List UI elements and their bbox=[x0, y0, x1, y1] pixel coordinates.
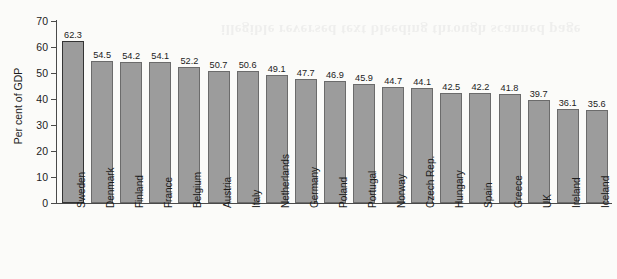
category-label: Czech Rep. bbox=[426, 156, 436, 208]
bar-value-label: 46.9 bbox=[319, 70, 351, 80]
category-label: Ireland bbox=[572, 177, 582, 208]
y-axis-tick-label: 50 bbox=[20, 68, 48, 78]
category-label: Finland bbox=[135, 175, 145, 208]
y-axis-tick bbox=[51, 21, 56, 22]
bar-value-label: 54.2 bbox=[115, 51, 147, 61]
y-axis-tick-label-text: 40 bbox=[26, 94, 48, 104]
y-axis-tick-label-text: 20 bbox=[26, 146, 48, 156]
bar-value-label: 50.7 bbox=[203, 60, 235, 70]
category-label: Norway bbox=[397, 174, 407, 208]
bar-value-label: 44.7 bbox=[377, 76, 409, 86]
category-label: Spain bbox=[484, 182, 494, 208]
bar-value-label: 52.2 bbox=[173, 56, 205, 66]
y-axis-tick-label: 40 bbox=[20, 94, 48, 104]
bar-value-label: 36.1 bbox=[552, 98, 584, 108]
y-axis-tick bbox=[51, 151, 56, 152]
y-axis-tick-label-text: 0 bbox=[26, 198, 48, 208]
y-axis-tick bbox=[51, 47, 56, 48]
y-axis-tick bbox=[51, 203, 56, 204]
bar-value-label: 41.8 bbox=[494, 83, 526, 93]
y-axis-tick-label-text: 50 bbox=[26, 68, 48, 78]
y-axis-tick-label: 20 bbox=[20, 146, 48, 156]
category-label: Portugal bbox=[368, 171, 378, 208]
category-label: France bbox=[164, 177, 174, 208]
chart-page: illegible reversed text bleeding through… bbox=[0, 0, 617, 279]
y-axis-tick bbox=[51, 125, 56, 126]
category-label: Netherlands bbox=[281, 154, 291, 208]
y-axis-tick-label-text: 70 bbox=[26, 16, 48, 26]
category-label: Italy bbox=[252, 190, 262, 208]
category-label: Iceland bbox=[601, 176, 611, 208]
category-label: Austria bbox=[223, 177, 233, 208]
bar-value-label: 50.6 bbox=[232, 60, 264, 70]
category-label: Sweden bbox=[77, 172, 87, 208]
y-axis-tick bbox=[51, 73, 56, 74]
bar-value-label: 42.5 bbox=[435, 82, 467, 92]
y-axis-tick bbox=[51, 99, 56, 100]
category-label: Belgium bbox=[193, 172, 203, 208]
y-axis-tick-label-text: 10 bbox=[26, 172, 48, 182]
category-label: Poland bbox=[339, 177, 349, 208]
bar-value-label: 39.7 bbox=[523, 89, 555, 99]
bar-value-label: 47.7 bbox=[290, 68, 322, 78]
y-axis-tick-label: 70 bbox=[20, 16, 48, 26]
y-axis-tick-label-text: 30 bbox=[26, 120, 48, 130]
bar bbox=[528, 100, 550, 203]
bar-value-label: 35.6 bbox=[581, 99, 613, 109]
bar-value-label: 54.1 bbox=[144, 51, 176, 61]
category-label: Germany bbox=[310, 167, 320, 208]
bar-value-label: 45.9 bbox=[348, 73, 380, 83]
y-axis-tick-label: 30 bbox=[20, 120, 48, 130]
y-axis-tick-label: 60 bbox=[20, 42, 48, 52]
category-label: Hungary bbox=[455, 170, 465, 208]
category-label: UK bbox=[543, 194, 553, 208]
bar bbox=[237, 71, 259, 203]
category-label: Greece bbox=[514, 175, 524, 208]
bar-value-label: 42.2 bbox=[464, 82, 496, 92]
bar-value-label: 49.1 bbox=[261, 64, 293, 74]
bar-chart: Per cent of GDP 010203040506070 62.354.5… bbox=[0, 0, 617, 279]
y-axis-tick bbox=[51, 177, 56, 178]
bar-value-label: 44.1 bbox=[406, 77, 438, 87]
y-axis-tick-label-text: 60 bbox=[26, 42, 48, 52]
y-axis-tick-label: 0 bbox=[20, 198, 48, 208]
category-label: Denmark bbox=[106, 167, 116, 208]
y-axis-line bbox=[56, 20, 57, 204]
y-axis-tick-label: 10 bbox=[20, 172, 48, 182]
bar-value-label: 62.3 bbox=[57, 30, 89, 40]
bar-value-label: 54.5 bbox=[86, 50, 118, 60]
